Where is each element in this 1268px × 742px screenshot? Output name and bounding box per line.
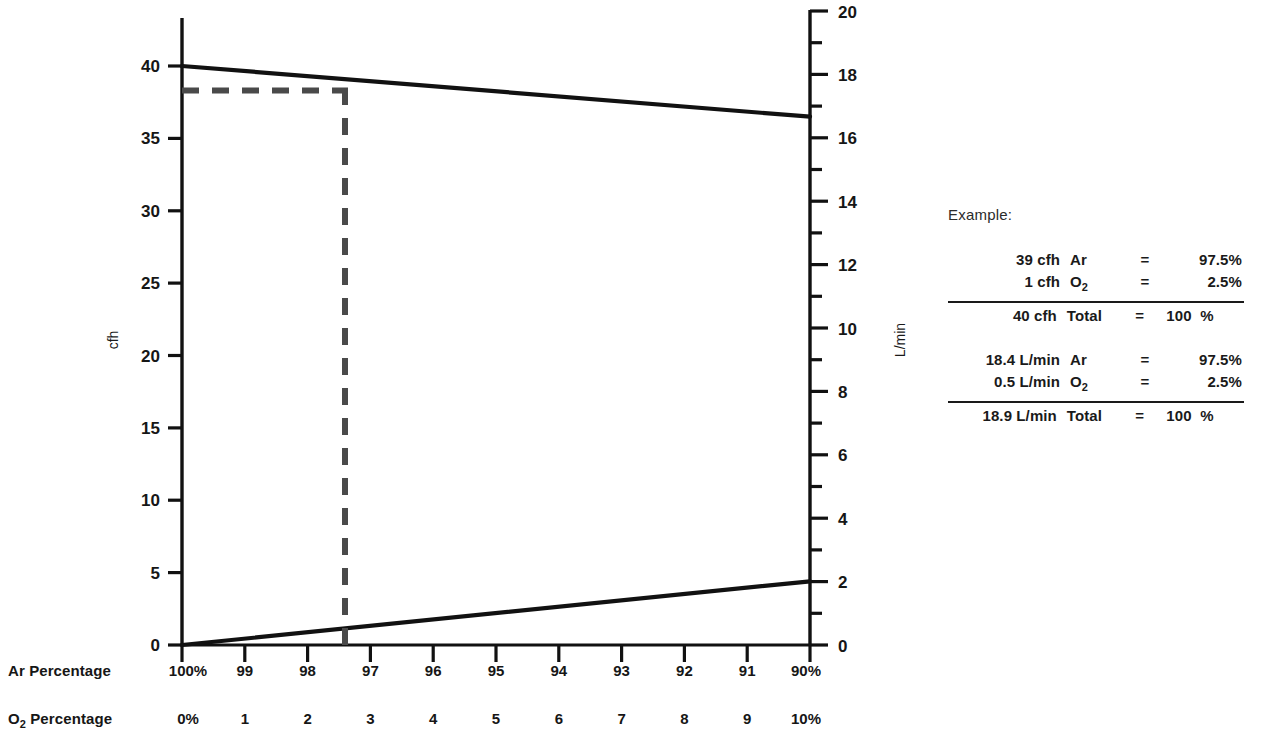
ar-tick-9: 91 xyxy=(739,662,756,679)
ar-tick-7: 93 xyxy=(613,662,630,679)
o2-tick-1: 1 xyxy=(241,710,249,727)
species-subscript: 2 xyxy=(1082,381,1088,393)
example-block-cfh: 39 cfh Ar = 97.5% 1 cfh O2 = 2.5% 40 cfh… xyxy=(948,249,1248,327)
row-value: 2.5% xyxy=(1158,271,1242,293)
o2-row-label-main: O xyxy=(8,710,20,727)
row-amount: 40 cfh xyxy=(948,305,1067,327)
ar-tick-5: 95 xyxy=(488,662,505,679)
total-number: 100 xyxy=(1166,307,1191,324)
o2-percentage-row-label: O2 Percentage xyxy=(8,710,112,730)
ar-tick-3: 97 xyxy=(362,662,379,679)
right-axis-tick-labels: 0 2 4 6 8 10 12 14 16 18 20 xyxy=(838,3,857,656)
row-species: O2 xyxy=(1070,271,1132,298)
ar-percentage-row-label: Ar Percentage xyxy=(8,662,111,679)
svg-text:25: 25 xyxy=(141,274,160,293)
ar-tick-8: 92 xyxy=(676,662,693,679)
total-percent-sign: % xyxy=(1200,407,1213,424)
row-value: 97.5% xyxy=(1158,249,1242,271)
svg-text:40: 40 xyxy=(141,57,160,76)
row-equals: = xyxy=(1132,271,1158,293)
svg-text:8: 8 xyxy=(838,383,847,402)
svg-text:4: 4 xyxy=(838,510,848,529)
row-value: 100 % xyxy=(1152,305,1248,327)
series-o2-flow-line xyxy=(182,581,810,645)
row-species: Ar xyxy=(1070,249,1132,271)
row-species: O2 xyxy=(1070,371,1132,398)
species-subscript: 2 xyxy=(1082,281,1088,293)
svg-text:15: 15 xyxy=(141,419,160,438)
svg-text:30: 30 xyxy=(141,202,160,221)
row-amount: 39 cfh xyxy=(948,249,1070,271)
bottom-axis-ticks xyxy=(182,645,810,662)
svg-text:20: 20 xyxy=(838,3,857,22)
table-row: 0.5 L/min O2 = 2.5% xyxy=(948,371,1248,398)
table-row: 1 cfh O2 = 2.5% xyxy=(948,271,1248,298)
ar-tick-6: 94 xyxy=(550,662,567,679)
o2-tick-6: 6 xyxy=(555,710,563,727)
example-panel: Example: 39 cfh Ar = 97.5% 1 cfh O2 = 2.… xyxy=(948,206,1260,449)
species-main: O xyxy=(1070,373,1082,390)
ar-percentage-row: Ar Percentage 100% 99 98 97 96 95 94 93 … xyxy=(0,662,900,698)
ar-tick-1: 99 xyxy=(236,662,253,679)
row-equals: = xyxy=(1127,305,1152,327)
table-row: 18.4 L/min Ar = 97.5% xyxy=(948,349,1248,371)
table-row-total: 40 cfh Total = 100 % xyxy=(948,305,1248,327)
row-value: 97.5% xyxy=(1158,349,1242,371)
o2-tick-9: 9 xyxy=(743,710,751,727)
left-axis-tick-labels: 0 5 10 15 20 25 30 35 40 xyxy=(141,57,160,655)
o2-row-label-rest: Percentage xyxy=(26,710,112,727)
x-axis-label-table: Ar Percentage 100% 99 98 97 96 95 94 93 … xyxy=(0,662,900,742)
svg-text:20: 20 xyxy=(141,347,160,366)
example-title: Example: xyxy=(948,206,1260,223)
o2-tick-4: 4 xyxy=(429,710,437,727)
row-species: Ar xyxy=(1070,349,1132,371)
table-total-rule xyxy=(948,301,1244,303)
row-equals: = xyxy=(1127,405,1152,427)
row-equals: = xyxy=(1132,249,1158,271)
row-value: 2.5% xyxy=(1158,371,1242,393)
ar-tick-4: 96 xyxy=(425,662,442,679)
row-equals: = xyxy=(1132,349,1158,371)
right-axis-title: L/min xyxy=(892,323,908,357)
ar-tick-10: 90% xyxy=(791,662,821,679)
ar-tick-0: 100% xyxy=(169,662,207,679)
svg-text:2: 2 xyxy=(838,573,847,592)
svg-text:18: 18 xyxy=(838,66,857,85)
svg-text:14: 14 xyxy=(838,193,857,212)
row-species: Total xyxy=(1067,305,1127,327)
svg-text:16: 16 xyxy=(838,129,857,148)
o2-tick-3: 3 xyxy=(366,710,374,727)
flow-rate-chart: 0 5 10 15 20 25 30 35 40 cfh xyxy=(0,0,1268,742)
row-amount: 18.9 L/min xyxy=(948,405,1067,427)
example-block-lmin: 18.4 L/min Ar = 97.5% 0.5 L/min O2 = 2.5… xyxy=(948,349,1248,427)
svg-text:6: 6 xyxy=(838,446,847,465)
o2-tick-7: 7 xyxy=(617,710,625,727)
svg-text:10: 10 xyxy=(838,320,857,339)
o2-tick-0: 0% xyxy=(177,710,199,727)
total-number: 100 xyxy=(1166,407,1191,424)
svg-text:0: 0 xyxy=(151,636,160,655)
row-species: Total xyxy=(1067,405,1127,427)
table-row-total: 18.9 L/min Total = 100 % xyxy=(948,405,1248,427)
row-equals: = xyxy=(1132,371,1158,393)
svg-text:12: 12 xyxy=(838,256,857,275)
total-percent-sign: % xyxy=(1200,307,1213,324)
species-main: O xyxy=(1070,273,1082,290)
o2-tick-2: 2 xyxy=(303,710,311,727)
row-amount: 0.5 L/min xyxy=(948,371,1070,393)
table-row: 39 cfh Ar = 97.5% xyxy=(948,249,1248,271)
row-value: 100 % xyxy=(1152,405,1248,427)
o2-tick-8: 8 xyxy=(680,710,688,727)
ar-tick-2: 98 xyxy=(299,662,316,679)
row-amount: 18.4 L/min xyxy=(948,349,1070,371)
left-axis-title: cfh xyxy=(105,331,121,350)
row-amount: 1 cfh xyxy=(948,271,1070,293)
svg-text:0: 0 xyxy=(838,637,847,656)
o2-tick-10: 10% xyxy=(791,710,821,727)
o2-tick-5: 5 xyxy=(492,710,500,727)
svg-text:35: 35 xyxy=(141,129,160,148)
o2-percentage-row: O2 Percentage 0% 1 2 3 4 5 6 7 8 9 10% xyxy=(0,710,900,742)
svg-text:10: 10 xyxy=(141,491,160,510)
left-axis-ticks xyxy=(168,66,182,645)
svg-text:5: 5 xyxy=(151,564,160,583)
